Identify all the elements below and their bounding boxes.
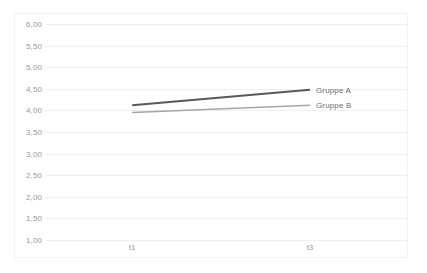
y-axis-tick-label: 3,00 xyxy=(14,149,42,158)
y-axis-tick-label: 4,00 xyxy=(14,106,42,115)
gridline xyxy=(45,240,408,241)
series-label-gruppe-b: Gruppe B xyxy=(316,101,351,110)
series-label-gruppe-a: Gruppe A xyxy=(316,85,351,94)
y-axis: 6,00 5,50 5,00 4,50 4,00 3,50 3,00 2,50 … xyxy=(14,24,42,240)
y-axis-tick-label: 6,00 xyxy=(14,20,42,29)
y-axis-tick-label: 2,00 xyxy=(14,192,42,201)
line-chart: 6,00 5,50 5,00 4,50 4,00 3,50 3,00 2,50 … xyxy=(0,0,427,273)
series-plot xyxy=(45,24,408,240)
x-axis: t1 t3 xyxy=(45,243,408,259)
y-axis-tick-label: 3,50 xyxy=(14,128,42,137)
y-axis-tick-label: 5,50 xyxy=(14,41,42,50)
y-axis-tick-label: 2,50 xyxy=(14,171,42,180)
y-axis-tick-label: 1,00 xyxy=(14,236,42,245)
y-axis-tick-label: 5,00 xyxy=(14,63,42,72)
series-line-gruppe-a xyxy=(132,90,310,106)
plot-area xyxy=(45,24,408,240)
y-axis-tick-label: 1,50 xyxy=(14,214,42,223)
series-line-gruppe-b xyxy=(132,105,310,112)
y-axis-tick-label: 4,50 xyxy=(14,84,42,93)
x-axis-tick-label: t1 xyxy=(129,243,136,252)
x-axis-tick-label: t3 xyxy=(307,243,314,252)
